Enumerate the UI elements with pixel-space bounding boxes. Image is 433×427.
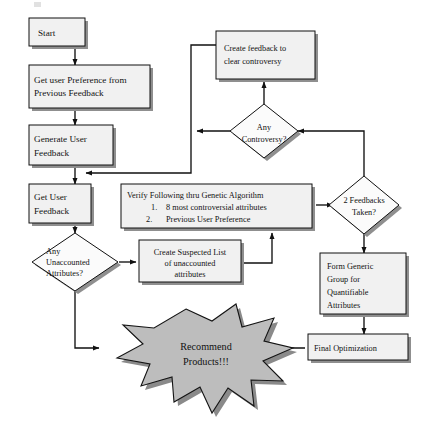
node-recommend-products[interactable]: Recommend Products!!! <box>117 304 297 417</box>
node-create-feedback[interactable]: Create feedback to clear controversy <box>216 31 318 82</box>
node-any-unaccounted-line1: Any <box>46 247 61 256</box>
node-get-feedback-line2: Feedback <box>34 206 70 216</box>
node-final-optimization[interactable]: Final Optimization <box>308 334 411 363</box>
edge-create-suspected-to-verify <box>244 233 272 263</box>
node-create-suspected-line2: of unaccounted <box>165 259 217 268</box>
node-get-preference-line1: Get user Preference from <box>34 75 127 85</box>
node-any-controversy-line2: Controversy? <box>242 135 287 144</box>
node-verify-item-2-text: Previous User Preference <box>166 215 251 224</box>
flowchart-canvas: Start Get user Preference from Previous … <box>0 0 433 427</box>
node-form-generic-line1: Form Generic <box>327 262 374 271</box>
node-start[interactable]: Start <box>29 18 88 49</box>
node-two-feedbacks-line1: 2 Feedbacks <box>343 196 384 205</box>
node-create-suspected-line1: Create Suspected List <box>154 248 227 257</box>
node-two-feedbacks[interactable]: 2 Feedbacks Taken? <box>329 176 402 237</box>
flowchart-svg: Start Get user Preference from Previous … <box>0 0 433 427</box>
edge-two-feedbacks-to-any-controversy <box>298 131 364 176</box>
node-create-feedback-line1: Create feedback to <box>224 44 286 53</box>
scan-artifact <box>34 2 41 7</box>
node-any-controversy[interactable]: Any Controversy? <box>230 104 301 161</box>
node-create-suspected[interactable]: Create Suspected List of unaccounted att… <box>139 240 244 285</box>
node-verify-item-2-number: 2. <box>146 215 152 224</box>
node-final-optimization-label: Final Optimization <box>314 344 378 353</box>
edge-any-unaccounted-to-recommend <box>75 291 99 348</box>
node-any-controversy-line1: Any <box>257 123 272 132</box>
node-verify-item-1-number: 1. <box>151 203 157 212</box>
node-verify-heading: Verify Following thru Genetic Algorithm <box>127 191 264 200</box>
node-create-feedback-line2: clear controversy <box>224 57 282 66</box>
node-form-generic-line3: Quantifiable <box>327 288 369 297</box>
node-recommend-products-line1: Recommend <box>180 341 232 352</box>
node-verify-item-1-text: 8 most controversial attributes <box>166 203 267 212</box>
node-any-unaccounted-line3: Attributes? <box>46 269 83 278</box>
node-get-feedback-line1: Get User <box>34 192 67 202</box>
node-form-generic-line4: Attributes <box>327 301 360 310</box>
node-verify-following[interactable]: Verify Following thru Genetic Algorithm … <box>121 184 315 231</box>
node-two-feedbacks-line2: Taken? <box>352 208 376 217</box>
node-generate-feedback-line1: Generate User <box>34 134 87 144</box>
node-recommend-products-line2: Products!!! <box>183 356 229 367</box>
node-any-unaccounted-line2: Unaccounted <box>46 258 91 267</box>
node-get-preference[interactable]: Get user Preference from Previous Feedba… <box>29 65 153 111</box>
node-get-preference-line2: Previous Feedback <box>34 88 104 98</box>
node-form-generic-group[interactable]: Form Generic Group for Quantifiable Attr… <box>320 253 409 317</box>
node-generate-feedback[interactable]: Generate User Feedback <box>29 125 116 168</box>
node-any-unaccounted[interactable]: Any Unaccounted Attributes? <box>32 233 121 294</box>
node-get-feedback[interactable]: Get User Feedback <box>29 184 94 226</box>
node-create-suspected-line3: attributes <box>175 270 206 279</box>
node-generate-feedback-line2: Feedback <box>34 148 70 158</box>
node-form-generic-line2: Group for <box>327 275 360 284</box>
node-start-label: Start <box>38 28 56 38</box>
